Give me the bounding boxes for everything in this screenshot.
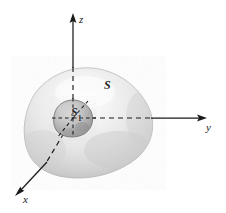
figure-container: z y x S S1 [0,0,226,213]
x-axis-solid [20,162,47,191]
x-axis-label: x [23,194,28,205]
inner-surface-label: S1 [71,106,82,121]
surface-integral-diagram [0,0,226,213]
inner-surface-label-subscript: 1 [78,114,82,123]
outer-surface-label-text: S [104,78,111,92]
y-axis-label: y [206,122,211,133]
inner-surface-label-text: S [71,105,78,119]
outer-surface-label: S [104,79,111,91]
z-axis-label: z [79,14,83,25]
